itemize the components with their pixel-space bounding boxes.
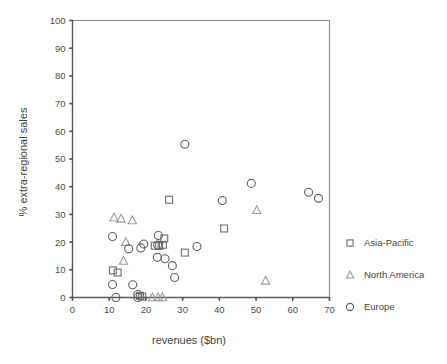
x-tick-label: 50: [251, 304, 262, 315]
y-tick-label: 70: [55, 98, 66, 109]
legend-marker-circle: [346, 303, 353, 310]
data-point-square: [166, 196, 173, 203]
data-point-circle: [109, 280, 117, 288]
legend-marker-square: [347, 240, 353, 246]
data-point-circle: [125, 245, 133, 253]
data-point-square: [181, 249, 188, 256]
x-axis-tick-labels: 010203040506070: [70, 304, 335, 315]
y-tick-label: 60: [55, 126, 66, 137]
data-point-circle: [305, 188, 313, 196]
y-tick-label: 10: [55, 264, 66, 275]
y-axis-tick-labels: 0102030405060708090100: [50, 15, 66, 303]
data-points: [109, 140, 323, 301]
chart-legend: Asia-PacificNorth AmericaEurope: [346, 237, 425, 312]
data-point-triangle: [117, 214, 125, 222]
scatter-plot-figure: 010203040506070 0102030405060708090100 A…: [0, 0, 447, 364]
x-tick-label: 20: [141, 304, 152, 315]
data-point-triangle: [262, 276, 270, 284]
y-axis-title: % extra-regional sales: [17, 107, 29, 216]
legend-marker-triangle: [346, 271, 353, 278]
data-point-circle: [161, 255, 169, 263]
plot-frame-top-right: [73, 21, 330, 298]
data-point-triangle: [128, 216, 136, 224]
y-tick-label: 0: [60, 292, 65, 303]
y-tick-label: 30: [55, 209, 66, 220]
data-point-triangle: [119, 256, 127, 264]
data-point-circle: [218, 197, 226, 205]
data-point-square: [114, 269, 121, 276]
data-point-square: [221, 225, 228, 232]
legend-entry-asia-pacific[interactable]: Asia-Pacific: [347, 237, 414, 248]
y-tick-label: 90: [55, 43, 66, 54]
y-tick-label: 40: [55, 181, 66, 192]
plot-frame: [73, 21, 330, 298]
y-tick-label: 20: [55, 237, 66, 248]
plot-axis-left-bottom: [73, 21, 330, 298]
x-tick-label: 60: [287, 304, 298, 315]
data-point-circle: [247, 179, 255, 187]
series-europe: [109, 140, 323, 301]
series-north-america: [110, 206, 270, 301]
data-point-circle: [181, 140, 189, 148]
x-tick-label: 30: [177, 304, 188, 315]
legend-label: Europe: [364, 301, 395, 312]
legend-entry-north-america[interactable]: North America: [346, 269, 425, 280]
data-point-circle: [314, 194, 322, 202]
data-point-triangle: [253, 206, 261, 214]
axis-ticks: [69, 21, 329, 301]
x-tick-label: 0: [70, 304, 75, 315]
data-point-circle: [129, 281, 137, 289]
x-axis-title: revenues ($bn): [152, 334, 226, 346]
y-tick-label: 100: [50, 15, 66, 26]
data-point-circle: [109, 233, 117, 241]
x-tick-label: 40: [214, 304, 225, 315]
plot-canvas: 010203040506070 0102030405060708090100 A…: [0, 0, 447, 364]
legend-label: Asia-Pacific: [364, 237, 414, 248]
x-tick-label: 10: [104, 304, 115, 315]
data-point-circle: [171, 274, 179, 282]
data-point-circle: [168, 262, 176, 270]
data-point-triangle: [110, 213, 118, 221]
y-tick-label: 50: [55, 153, 66, 164]
data-point-circle: [153, 253, 161, 261]
data-point-square: [109, 267, 116, 274]
legend-entry-europe[interactable]: Europe: [346, 301, 394, 312]
y-tick-label: 80: [55, 70, 66, 81]
series-asia-pacific: [109, 196, 227, 300]
x-tick-label: 70: [324, 304, 335, 315]
legend-label: North America: [364, 269, 425, 280]
data-point-circle: [193, 243, 201, 251]
